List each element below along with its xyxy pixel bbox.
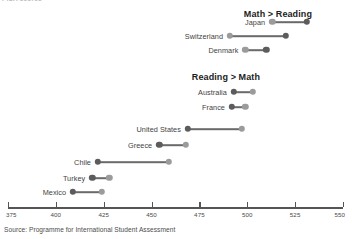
dumbbell-connector: [272, 21, 306, 23]
x-axis-tick-label: 525: [290, 211, 301, 218]
row-label: Switzerland: [185, 32, 223, 41]
reading-score-dot: [269, 19, 275, 25]
dumbbell-chart: 375400425450475500525550Math > ReadingJa…: [0, 0, 352, 239]
group-header-reading-gt-math: Reading > Math: [192, 72, 260, 82]
source-note: Source: Programme for International Stud…: [4, 226, 175, 233]
x-axis-tick: [8, 202, 9, 207]
row-label: Turkey: [63, 174, 85, 183]
row-label: Denmark: [208, 46, 238, 55]
math-score-dot: [95, 159, 101, 165]
reading-score-dot: [242, 104, 248, 110]
row-label: Australia: [198, 88, 227, 97]
x-axis-tick-label: 475: [194, 211, 205, 218]
math-score-dot: [229, 104, 235, 110]
reading-score-dot: [106, 175, 112, 181]
math-score-dot: [231, 89, 237, 95]
reading-score-dot: [238, 126, 244, 132]
reading-score-dot: [242, 47, 248, 53]
x-axis-line: [8, 207, 343, 209]
dumbbell-connector: [188, 128, 242, 130]
x-axis-tick: [295, 202, 296, 207]
math-score-dot: [70, 189, 76, 195]
reading-score-dot: [99, 189, 105, 195]
reading-score-dot: [183, 142, 189, 148]
x-axis-tick: [199, 202, 200, 207]
x-axis-tick: [247, 202, 248, 207]
dumbbell-connector: [73, 191, 102, 193]
x-axis-tick: [56, 202, 57, 207]
dumbbell-connector: [98, 161, 169, 163]
row-label: Chile: [74, 158, 91, 167]
x-axis-tick-label: 450: [146, 211, 157, 218]
x-axis-tick-label: 500: [242, 211, 253, 218]
x-axis-tick-label: 425: [98, 211, 109, 218]
math-score-dot: [156, 142, 162, 148]
math-score-dot: [282, 33, 288, 39]
reading-score-dot: [227, 33, 233, 39]
math-score-dot: [89, 175, 95, 181]
row-label: France: [202, 103, 225, 112]
row-label: Japan: [245, 18, 265, 27]
dumbbell-connector: [230, 35, 286, 37]
row-label: Mexico: [43, 188, 66, 197]
row-label: Greece: [128, 141, 152, 150]
x-axis-tick: [152, 202, 153, 207]
x-axis-tick-label: 550: [335, 211, 346, 218]
math-score-dot: [185, 126, 191, 132]
x-axis-tick: [343, 202, 344, 207]
math-score-dot: [303, 19, 309, 25]
math-score-dot: [263, 47, 269, 53]
x-axis-tick-label: 400: [51, 211, 62, 218]
x-axis-tick-label: 375: [6, 211, 17, 218]
row-label: United States: [136, 125, 180, 134]
reading-score-dot: [250, 89, 256, 95]
reading-score-dot: [166, 159, 172, 165]
x-axis-tick: [104, 202, 105, 207]
